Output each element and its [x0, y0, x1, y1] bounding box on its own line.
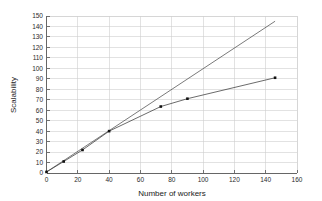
x-tick-label: 160 [292, 176, 303, 183]
x-axis-title: Number of workers [138, 189, 206, 198]
data-point-marker [159, 105, 162, 108]
x-tick-label: 60 [137, 176, 145, 183]
data-point-marker [62, 160, 65, 163]
x-tick-label: 120 [229, 176, 240, 183]
scalability-chart: 0102030405060708090100110120130140150020… [0, 0, 322, 201]
y-tick-label: 110 [33, 54, 44, 61]
y-tick-label: 120 [32, 44, 43, 51]
y-tick-label: 70 [36, 96, 44, 103]
y-tick-label: 10 [36, 159, 44, 166]
x-tick-label: 140 [260, 176, 271, 183]
data-point-marker [81, 149, 84, 152]
x-tick-label: 80 [168, 176, 176, 183]
y-tick-label: 150 [32, 12, 43, 19]
y-tick-label: 20 [36, 148, 44, 155]
y-tick-label: 50 [36, 117, 44, 124]
data-point-marker [45, 171, 48, 174]
data-point-marker [108, 130, 111, 133]
data-point-marker [274, 76, 277, 79]
x-tick-label: 100 [198, 176, 209, 183]
y-tick-label: 140 [32, 23, 43, 30]
x-tick-label: 40 [106, 176, 114, 183]
chart-canvas: 0102030405060708090100110120130140150020… [0, 0, 322, 201]
y-tick-label: 40 [36, 128, 44, 135]
y-tick-label: 100 [32, 65, 43, 72]
data-point-marker [186, 97, 189, 100]
x-tick-label: 20 [74, 176, 82, 183]
y-axis-title: Scalability [9, 77, 18, 113]
y-tick-label: 30 [36, 138, 44, 145]
y-tick-label: 80 [36, 86, 44, 93]
y-tick-label: 130 [32, 33, 43, 40]
y-tick-label: 0 [39, 169, 43, 176]
y-tick-label: 60 [36, 107, 44, 114]
x-tick-label: 0 [45, 176, 49, 183]
y-tick-label: 90 [36, 75, 44, 82]
